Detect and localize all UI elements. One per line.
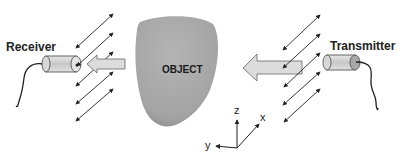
receiver-cylinder (42, 56, 81, 72)
transmitter-cable (356, 62, 378, 110)
axis-y-label: y (205, 139, 211, 151)
coordinate-axes (216, 120, 259, 148)
transmitter-label: Transmitter (330, 39, 395, 53)
diagram-graphics (0, 0, 400, 158)
receiver-cable (16, 64, 43, 107)
right-signal-arrow (243, 54, 302, 81)
object-label: OBJECT (162, 64, 203, 75)
diagram-canvas: Receiver Transmitter OBJECT z x y (0, 0, 400, 158)
axis-x-label: x (260, 111, 266, 123)
transmitter-cylinder (323, 55, 360, 70)
axis-z-label: z (234, 104, 240, 116)
receiver-label: Receiver (6, 40, 56, 54)
